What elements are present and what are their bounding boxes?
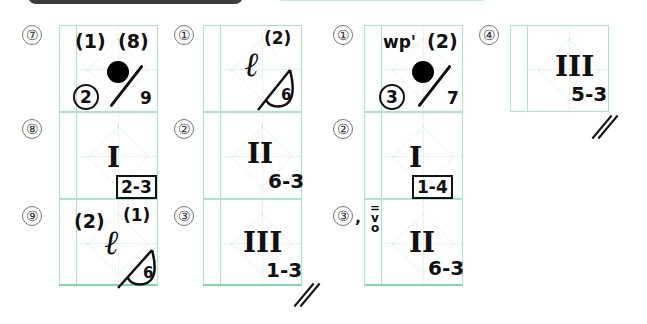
item-number: ② — [174, 119, 194, 139]
boxed-fingering: 2-3 — [116, 175, 157, 199]
item-suffix: , — [355, 208, 361, 227]
item-number: ① — [174, 25, 194, 45]
item-number: ⑧ — [22, 119, 42, 139]
roman-position: I — [409, 141, 422, 174]
fingering: 1-3 — [266, 258, 302, 282]
string-mark: (2) — [427, 30, 458, 52]
right-section-banner — [275, 0, 490, 1]
roman-position: II — [247, 137, 273, 170]
string-mark: (1) — [123, 205, 150, 225]
tab-cell-4: III 5-3 — [510, 25, 609, 112]
tab-cell-1: ℓ (2) 6 — [203, 25, 302, 112]
tab-cell-7: (1) (8) 2 9 — [59, 25, 158, 112]
string-mark: (2) — [74, 210, 105, 232]
fingering: 6-3 — [428, 256, 464, 280]
item-number: ③ — [174, 206, 194, 226]
tab-cell-2: I 1-4 — [364, 112, 463, 199]
string-mark: (1) — [75, 30, 106, 52]
tab-cell-3: II 6-3 — [364, 199, 463, 286]
tab-cell-3: III 1-3 — [203, 199, 302, 286]
boxed-fingering: 1-4 — [412, 175, 453, 199]
left-section-banner — [28, 0, 243, 4]
tab-cell-9: (2) ℓ (1) 6 — [59, 199, 158, 286]
roman-position: III — [555, 50, 594, 83]
roman-position: III — [243, 226, 282, 259]
tab-cell-1: wp' (2) 3 7 — [364, 25, 463, 112]
item-number: ③ — [333, 206, 353, 226]
string-mark: (8) — [118, 30, 149, 52]
item-number: ④ — [479, 25, 499, 45]
circled-finger: 2 — [73, 84, 99, 110]
string-mark: (2) — [264, 28, 291, 48]
black-dot-icon — [412, 61, 434, 83]
slash-value: 7 — [447, 88, 459, 108]
roman-position: I — [107, 141, 120, 174]
tab-cell-2: II 6-3 — [203, 112, 302, 199]
wp-mark: wp' — [383, 32, 416, 52]
item-number: ① — [333, 25, 353, 45]
fingering: 6-3 — [268, 169, 304, 193]
triangle-value: 6 — [281, 86, 291, 104]
triangle-value: 6 — [143, 264, 153, 282]
fingering: 5-3 — [571, 82, 607, 106]
tab-cell-8: I 2-3 — [59, 112, 158, 199]
grid-line — [381, 200, 382, 284]
circled-finger: 3 — [379, 84, 405, 110]
slash-value: 9 — [140, 88, 152, 108]
item-number: ⑦ — [22, 25, 42, 45]
item-number: ⑨ — [22, 206, 42, 226]
black-dot-icon — [107, 61, 129, 83]
grid-line — [220, 200, 221, 284]
roman-position: II — [409, 226, 435, 259]
item-number: ② — [333, 119, 353, 139]
